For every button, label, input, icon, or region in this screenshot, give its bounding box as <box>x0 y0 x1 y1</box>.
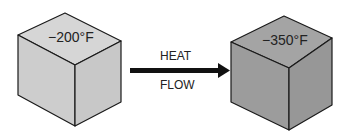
flow-label: FLOW <box>160 78 195 92</box>
heat-label: HEAT <box>160 49 191 63</box>
heat-flow-arrow <box>130 63 230 78</box>
left-cube-temperature-label: −200°F <box>48 29 94 45</box>
right-cube-temperature-label: −350°F <box>262 32 308 48</box>
diagram-canvas <box>0 0 351 139</box>
